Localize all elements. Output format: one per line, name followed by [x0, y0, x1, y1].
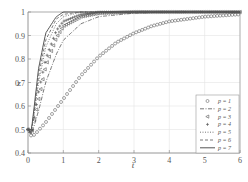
y-axis-label: z	[16, 78, 21, 88]
x-tick-label: 4	[167, 156, 171, 165]
legend-label: p = 3	[217, 114, 231, 120]
x-tick-label: 2	[97, 156, 101, 165]
y-tick-label: 1	[21, 8, 25, 17]
legend-label: p = 6	[217, 137, 231, 143]
legend-label: p = 1	[217, 98, 231, 104]
legend-label: p = 5	[217, 129, 231, 135]
x-tick-label: 6	[238, 156, 242, 165]
legend-label: p = 7	[217, 145, 232, 151]
y-tick-label: 0.4	[15, 149, 25, 158]
y-tick-label: 0.5	[15, 126, 25, 135]
x-tick-label: 5	[203, 156, 207, 165]
x-tick-label: 0	[26, 156, 30, 165]
y-tick-label: 0.8	[15, 55, 25, 64]
y-tick-label: 0.6	[15, 102, 25, 111]
legend: p = 1p = 2p = 3p = 4p = 5p = 6p = 7	[196, 95, 239, 153]
x-tick-label: 1	[61, 156, 65, 165]
line-chart: 0.40.50.60.70.80.91 0123456 t z p = 1p =…	[0, 0, 248, 182]
legend-label: p = 2	[217, 106, 231, 112]
y-tick-label: 0.9	[15, 32, 25, 41]
legend-label: p = 4	[217, 121, 231, 127]
